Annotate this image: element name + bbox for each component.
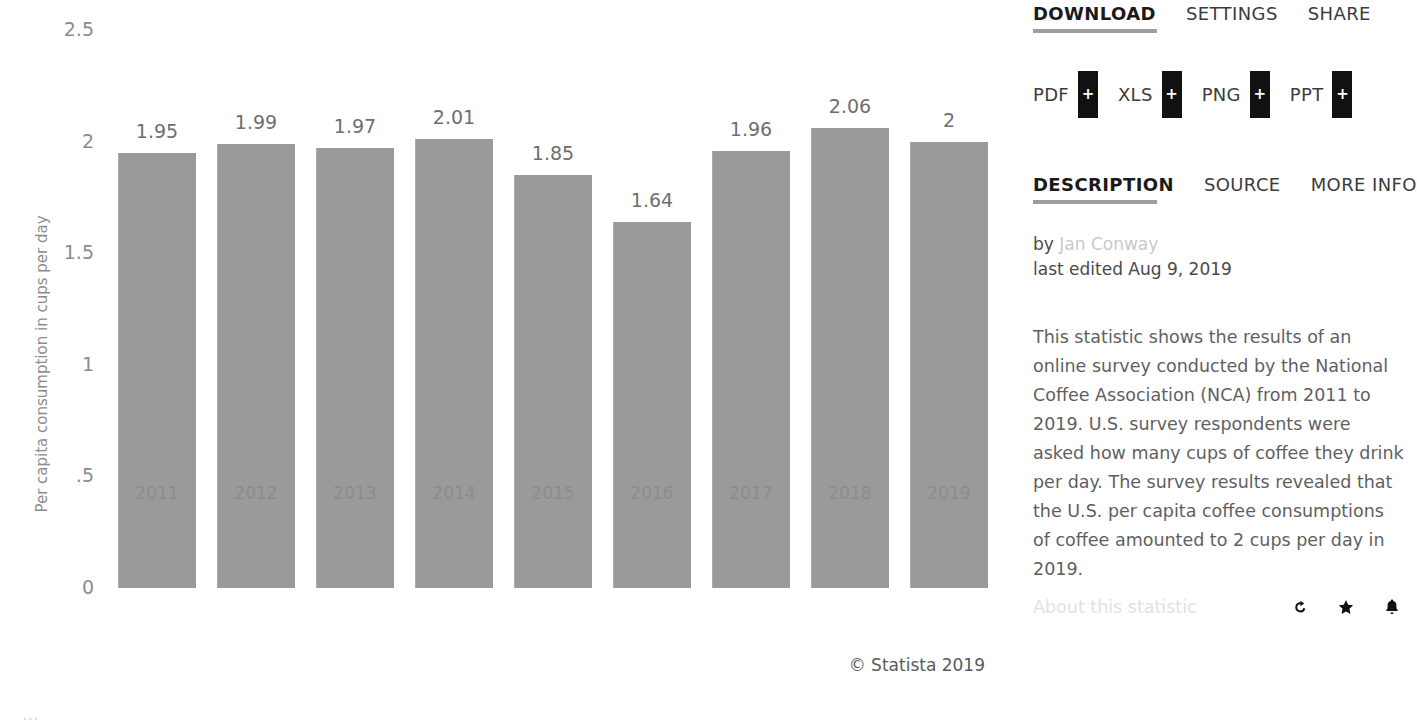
byline: by Jan Conway last edited Aug 9, 2019 bbox=[1033, 232, 1232, 281]
info-tab-underline bbox=[1033, 200, 1157, 204]
download-format-label: PDF bbox=[1033, 84, 1069, 105]
x-tick-label: 2012 bbox=[203, 485, 309, 502]
y-tick-label: 2.5 bbox=[34, 20, 94, 39]
download-format-label: PPT bbox=[1290, 84, 1324, 105]
x-tick-label: 2015 bbox=[500, 485, 606, 502]
plus-icon[interactable]: + bbox=[1332, 71, 1352, 118]
download-pdf-button[interactable]: PDF+ bbox=[1033, 71, 1098, 118]
y-tick-label: 1.5 bbox=[34, 243, 94, 262]
bar[interactable] bbox=[217, 144, 295, 588]
tab-description[interactable]: DESCRIPTION bbox=[1033, 174, 1174, 195]
x-tick-label: 2018 bbox=[797, 485, 903, 502]
bar[interactable] bbox=[118, 153, 196, 588]
download-tab-row: DOWNLOADSETTINGSSHARE bbox=[1033, 3, 1371, 24]
y-tick-label: 1 bbox=[34, 355, 94, 374]
bar[interactable] bbox=[910, 142, 988, 588]
x-tick-label: 2016 bbox=[599, 485, 705, 502]
bar-value-label: 1.64 bbox=[599, 191, 705, 210]
star-icon[interactable] bbox=[1335, 596, 1357, 618]
bar-value-label: 2 bbox=[896, 111, 1002, 130]
bar-value-label: 1.99 bbox=[203, 113, 309, 132]
x-tick-label: 2014 bbox=[401, 485, 507, 502]
bar[interactable] bbox=[811, 128, 889, 588]
plus-icon[interactable]: + bbox=[1078, 71, 1098, 118]
footer-icons bbox=[1289, 596, 1403, 618]
bar-value-label: 2.06 bbox=[797, 97, 903, 116]
tab-more-info[interactable]: MORE INFO bbox=[1311, 174, 1417, 195]
y-tick-label: 0 bbox=[34, 578, 94, 597]
author-link[interactable]: Jan Conway bbox=[1059, 234, 1158, 254]
side-panel: DOWNLOADSETTINGSSHARE PDF+XLS+PNG+PPT+ D… bbox=[1020, 0, 1415, 716]
x-tick-label: 2011 bbox=[104, 485, 210, 502]
tab-download[interactable]: DOWNLOAD bbox=[1033, 3, 1156, 24]
bar-value-label: 1.95 bbox=[104, 122, 210, 141]
plot-area: 1.9520111.9920121.9720132.0120141.852015… bbox=[108, 0, 1020, 716]
copyright-label: © Statista 2019 bbox=[0, 655, 985, 675]
download-tab-underline bbox=[1033, 29, 1157, 33]
download-buttons-row: PDF+XLS+PNG+PPT+ bbox=[1033, 71, 1352, 118]
bell-icon[interactable] bbox=[1381, 596, 1403, 618]
info-tab-row: DESCRIPTIONSOURCEMORE INFO bbox=[1033, 174, 1417, 195]
plus-icon[interactable]: + bbox=[1250, 71, 1270, 118]
x-tick-label: 2017 bbox=[698, 485, 804, 502]
y-tick-label: 2 bbox=[34, 132, 94, 151]
download-xls-button[interactable]: XLS+ bbox=[1118, 71, 1182, 118]
x-tick-label: 2019 bbox=[896, 485, 1002, 502]
tab-source[interactable]: SOURCE bbox=[1204, 174, 1281, 195]
description-text: This statistic shows the results of an o… bbox=[1033, 323, 1405, 584]
y-axis-ticks: 2.521.51.50 bbox=[22, 0, 94, 716]
last-edited-label: last edited Aug 9, 2019 bbox=[1033, 257, 1232, 282]
bottom-cut-text: … bbox=[22, 706, 39, 723]
about-this-statistic-link[interactable]: About this statistic bbox=[1033, 597, 1197, 617]
download-png-button[interactable]: PNG+ bbox=[1202, 71, 1270, 118]
history-icon[interactable] bbox=[1289, 596, 1311, 618]
download-format-label: XLS bbox=[1118, 84, 1153, 105]
plus-icon[interactable]: + bbox=[1162, 71, 1182, 118]
tab-settings[interactable]: SETTINGS bbox=[1186, 3, 1278, 24]
bar-value-label: 2.01 bbox=[401, 108, 507, 127]
bar-value-label: 1.96 bbox=[698, 120, 804, 139]
x-tick-label: 2013 bbox=[302, 485, 408, 502]
bar[interactable] bbox=[415, 139, 493, 588]
bar[interactable] bbox=[613, 222, 691, 588]
bar[interactable] bbox=[316, 148, 394, 588]
bar[interactable] bbox=[514, 175, 592, 588]
download-format-label: PNG bbox=[1202, 84, 1241, 105]
bar[interactable] bbox=[712, 151, 790, 588]
bar-value-label: 1.85 bbox=[500, 144, 606, 163]
bar-value-label: 1.97 bbox=[302, 117, 408, 136]
y-tick-label: .5 bbox=[34, 466, 94, 485]
download-ppt-button[interactable]: PPT+ bbox=[1290, 71, 1353, 118]
panel-footer: About this statistic bbox=[1033, 596, 1415, 618]
by-prefix: by bbox=[1033, 234, 1059, 254]
chart-container: Per capita consumption in cups per day 2… bbox=[0, 0, 1020, 716]
tab-share[interactable]: SHARE bbox=[1308, 3, 1371, 24]
